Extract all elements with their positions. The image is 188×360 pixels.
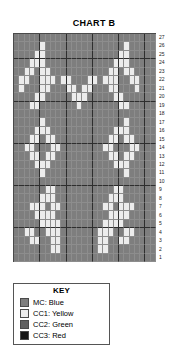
chart-cell[interactable]	[151, 127, 156, 135]
row-number: 12	[158, 160, 184, 168]
row-number: 26	[158, 41, 184, 49]
chart-cell[interactable]	[151, 93, 156, 101]
legend-item-cc1: CC1: Yellow	[14, 308, 109, 319]
row-number: 17	[158, 118, 184, 126]
chart-cell[interactable]	[151, 76, 156, 84]
chart-cell[interactable]	[151, 42, 156, 50]
row-number: 9	[158, 186, 184, 194]
chart-cell[interactable]	[151, 169, 156, 177]
chart-cell[interactable]	[151, 194, 156, 202]
row-number: 25	[158, 50, 184, 58]
row-number-axis: 2726252423222120191817161514131211109876…	[158, 33, 184, 262]
chart-cell[interactable]	[151, 51, 156, 59]
row-number: 10	[158, 177, 184, 185]
chart-cell[interactable]	[151, 102, 156, 110]
row-number: 22	[158, 75, 184, 83]
legend-key: KEY MC: BlueCC1: YellowCC2: GreenCC3: Re…	[13, 283, 110, 345]
row-number: 14	[158, 143, 184, 151]
legend-title: KEY	[14, 286, 109, 295]
row-number: 8	[158, 194, 184, 202]
row-number: 6	[158, 211, 184, 219]
chart-cell[interactable]	[151, 228, 156, 236]
legend-swatch-icon	[20, 309, 29, 318]
chart-cell[interactable]	[151, 237, 156, 245]
legend-swatch-icon	[20, 331, 29, 340]
row-number: 7	[158, 203, 184, 211]
chart-cell[interactable]	[151, 203, 156, 211]
legend-item-label: MC: Blue	[33, 298, 64, 307]
chart-cell[interactable]	[151, 85, 156, 93]
legend-item-mc: MC: Blue	[14, 297, 109, 308]
legend-item-label: CC2: Green	[33, 320, 73, 329]
chart-cell[interactable]	[151, 144, 156, 152]
row-number: 18	[158, 109, 184, 117]
row-number: 15	[158, 135, 184, 143]
row-number: 20	[158, 92, 184, 100]
chart-cell[interactable]	[151, 110, 156, 118]
row-number: 27	[158, 33, 184, 41]
row-number: 13	[158, 152, 184, 160]
chart-cell[interactable]	[151, 68, 156, 76]
chart-cell[interactable]	[151, 178, 156, 186]
legend-swatch-icon	[20, 320, 29, 329]
row-number: 21	[158, 84, 184, 92]
legend-item-label: CC1: Yellow	[33, 309, 73, 318]
chart-cell[interactable]	[151, 220, 156, 228]
row-number: 16	[158, 126, 184, 134]
row-number: 4	[158, 228, 184, 236]
chart-cell[interactable]	[151, 254, 156, 262]
legend-item-cc3: CC3: Red	[14, 330, 109, 341]
legend-items: MC: BlueCC1: YellowCC2: GreenCC3: Red	[14, 297, 109, 341]
row-number: 24	[158, 58, 184, 66]
row-number: 5	[158, 220, 184, 228]
chart-cell[interactable]	[151, 161, 156, 169]
row-number: 3	[158, 237, 184, 245]
chart-cell[interactable]	[151, 118, 156, 126]
stitch-chart-grid[interactable]	[13, 33, 156, 262]
row-number: 19	[158, 101, 184, 109]
row-number: 11	[158, 169, 184, 177]
row-number: 23	[158, 67, 184, 75]
row-number: 1	[158, 254, 184, 262]
chart-cell[interactable]	[151, 152, 156, 160]
chart-cell[interactable]	[151, 34, 156, 42]
row-number: 2	[158, 245, 184, 253]
chart-cell[interactable]	[151, 186, 156, 194]
legend-swatch-icon	[20, 298, 29, 307]
chart-grid-area	[13, 33, 156, 262]
chart-cell[interactable]	[151, 245, 156, 253]
legend-item-label: CC3: Red	[33, 331, 66, 340]
chart-cell[interactable]	[151, 211, 156, 219]
legend-item-cc2: CC2: Green	[14, 319, 109, 330]
chart-cell[interactable]	[151, 59, 156, 67]
page-title: CHART B	[0, 18, 188, 28]
chart-cell[interactable]	[151, 135, 156, 143]
